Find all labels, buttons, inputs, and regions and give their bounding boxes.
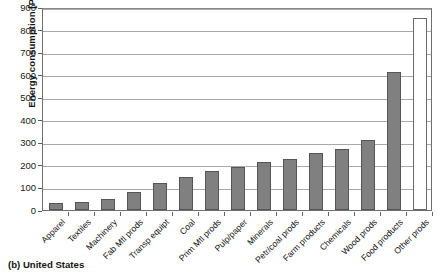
- bar-coal: [179, 177, 193, 210]
- bar-wood-prods: [361, 140, 375, 210]
- x-tick-mark-13: [406, 212, 407, 216]
- x-tick-mark-2: [120, 212, 121, 216]
- gridline-800: [43, 31, 431, 32]
- bar-chemicals: [335, 149, 349, 210]
- bar-farm-products: [309, 153, 323, 210]
- x-tick-mark-10: [328, 212, 329, 216]
- x-tick-mark-14: [432, 212, 433, 216]
- y-tick-label-100: 100: [0, 182, 36, 193]
- bar-other-prods: [413, 18, 427, 210]
- x-tick-mark-3: [146, 212, 147, 216]
- figure-caption: (b) United States: [8, 259, 84, 270]
- x-tick-mark-1: [94, 212, 95, 216]
- bar-textiles: [75, 202, 89, 210]
- x-tick-mark-8: [276, 212, 277, 216]
- y-tick-label-200: 200: [0, 160, 36, 171]
- bar-food-products: [387, 72, 401, 210]
- bar-petr-coal-prods: [283, 159, 297, 210]
- x-tick-mark-9: [302, 212, 303, 216]
- chart-figure: Energy consumption [PJ] 0100200300400500…: [0, 0, 446, 276]
- bar-minerals: [257, 162, 271, 210]
- y-tick-label-800: 800: [0, 25, 36, 36]
- bar-apparel: [49, 203, 63, 210]
- y-tick-label-400: 400: [0, 115, 36, 126]
- gridline-400: [43, 121, 431, 122]
- bar-pulp-paper: [231, 167, 245, 210]
- bar-fab-mtl-prods: [127, 192, 141, 210]
- x-tick-mark-7: [250, 212, 251, 216]
- x-tick-mark-0: [68, 212, 69, 216]
- x-axis-label-coal: Coal: [177, 217, 197, 237]
- gridline-900: [43, 9, 431, 10]
- gridline-600: [43, 76, 431, 77]
- x-tick-mark-6: [224, 212, 225, 216]
- gridline-700: [43, 54, 431, 55]
- x-tick-mark-4: [172, 212, 173, 216]
- bar-prim-mtl-prods: [205, 171, 219, 210]
- bar-machinery: [101, 199, 115, 210]
- plot-area: [42, 8, 432, 211]
- gridline-500: [43, 99, 431, 100]
- y-tick-label-900: 900: [0, 2, 36, 13]
- y-tick-label-600: 600: [0, 70, 36, 81]
- x-axis-label-apparel: Apparel: [39, 217, 67, 245]
- y-tick-label-500: 500: [0, 92, 36, 103]
- y-tick-label-300: 300: [0, 137, 36, 148]
- x-tick-mark-12: [380, 212, 381, 216]
- x-tick-mark-11: [354, 212, 355, 216]
- y-tick-label-700: 700: [0, 47, 36, 58]
- bar-transp-equipt: [153, 183, 167, 210]
- y-tick-label-0: 0: [0, 205, 36, 216]
- x-tick-mark-5: [198, 212, 199, 216]
